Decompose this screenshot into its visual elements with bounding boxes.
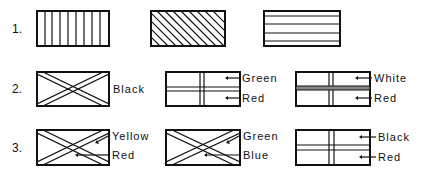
label-black: Black (113, 83, 145, 95)
row1-diagonal-stripes-box (125, 11, 248, 46)
label-green: Green (243, 130, 279, 142)
label-red: Red (378, 151, 401, 163)
row3-double-line-cross-box (296, 130, 376, 165)
row2-thick-horizontal-cross-box (296, 72, 372, 106)
row3-double-diagonal-cross-box-2 (166, 130, 241, 165)
label-yellow: Yellow (112, 130, 149, 142)
label-red: Red (112, 149, 135, 161)
row-3-number: 3. (12, 141, 22, 155)
row2-double-diagonal-cross-box (37, 72, 109, 106)
row-2-number: 2. (12, 82, 22, 96)
label-red: Red (242, 92, 265, 104)
row1-vertical-stripes-box (37, 11, 109, 46)
label-green: Green (242, 72, 278, 84)
row1-horizontal-stripes-box (264, 11, 340, 46)
label-white: White (374, 72, 407, 84)
flag-pattern-diagram: 1. (0, 0, 424, 178)
row-1-number: 1. (12, 22, 22, 36)
row3-double-diagonal-cross-box (37, 130, 110, 165)
label-blue: Blue (243, 149, 269, 161)
row2-double-line-cross-box (166, 72, 240, 106)
label-black: Black (378, 131, 410, 143)
label-red: Red (374, 92, 397, 104)
